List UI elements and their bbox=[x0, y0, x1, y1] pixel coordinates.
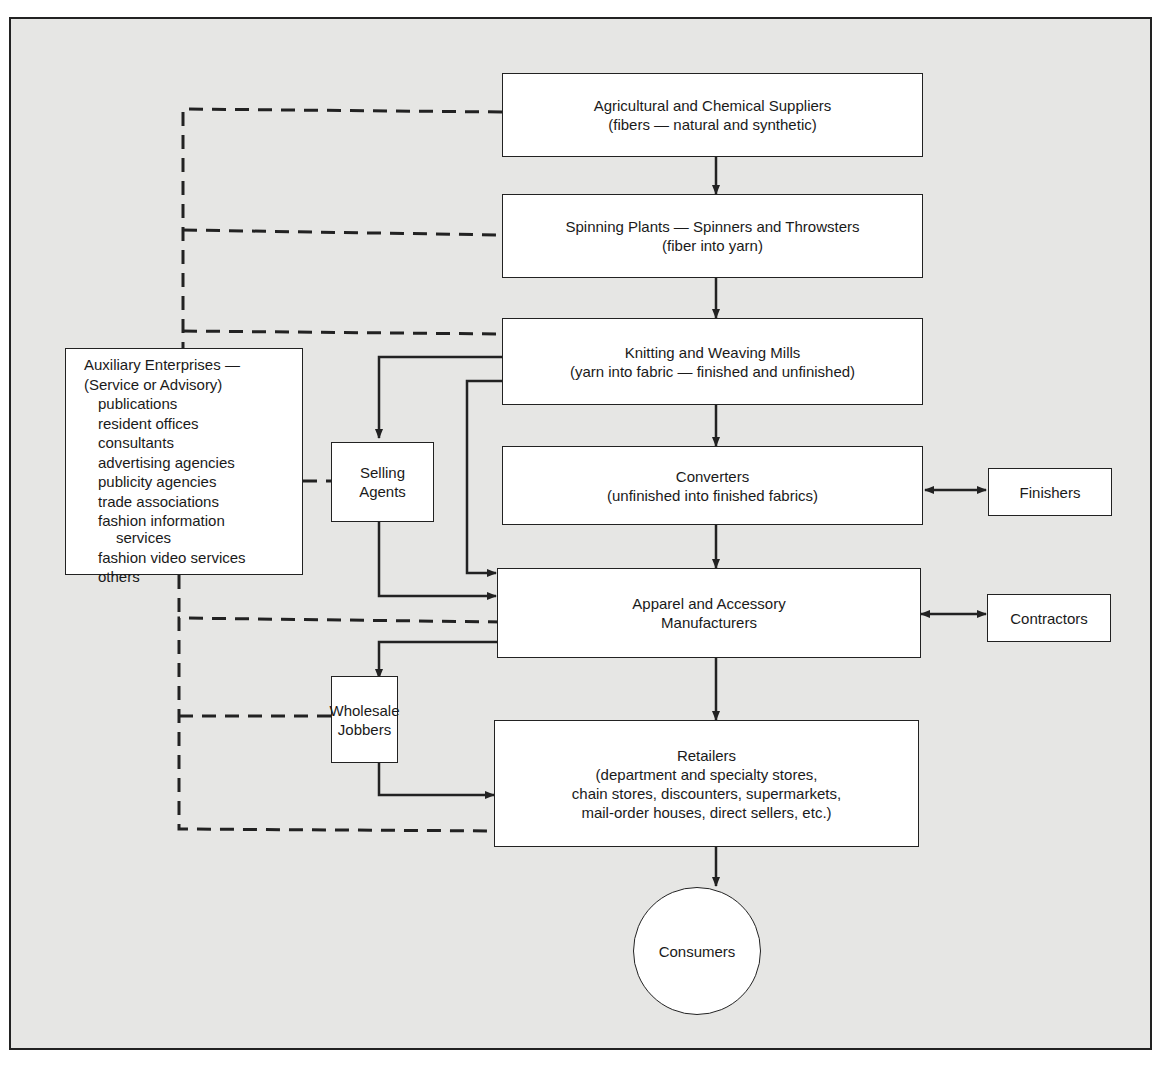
node-title: Apparel and Accessory bbox=[632, 594, 785, 613]
aux-title: Auxiliary Enterprises — bbox=[84, 355, 302, 375]
aux-item: resident offices bbox=[84, 414, 302, 434]
node-selling-agents: Selling Agents bbox=[331, 442, 434, 522]
node-line: (department and specialty stores, bbox=[596, 765, 818, 784]
node-title: Knitting and Weaving Mills bbox=[625, 343, 801, 362]
node-title: Converters bbox=[676, 467, 749, 486]
node-title: Consumers bbox=[659, 943, 736, 960]
aux-item: fashion video services bbox=[84, 548, 302, 568]
node-knitting-weaving-mills: Knitting and Weaving Mills (yarn into fa… bbox=[502, 318, 923, 405]
node-title: Jobbers bbox=[338, 720, 391, 739]
node-title: Retailers bbox=[677, 746, 736, 765]
node-subtitle: (unfinished into finished fabrics) bbox=[607, 486, 818, 505]
node-title: Spinning Plants — Spinners and Throwster… bbox=[565, 217, 859, 236]
node-consumers: Consumers bbox=[633, 887, 761, 1015]
node-auxiliary-enterprises: Auxiliary Enterprises — (Service or Advi… bbox=[65, 348, 303, 575]
aux-item: others bbox=[84, 567, 302, 587]
node-wholesale-jobbers: Wholesale Jobbers bbox=[331, 676, 398, 763]
aux-item: publications bbox=[84, 394, 302, 414]
node-title: Selling bbox=[360, 463, 405, 482]
node-line: chain stores, discounters, supermarkets, bbox=[572, 784, 841, 803]
node-converters: Converters (unfinished into finished fab… bbox=[502, 446, 923, 525]
node-finishers: Finishers bbox=[988, 468, 1112, 516]
aux-item: publicity agencies bbox=[84, 472, 302, 492]
node-spinning-plants: Spinning Plants — Spinners and Throwster… bbox=[502, 194, 923, 278]
node-title: Agricultural and Chemical Suppliers bbox=[594, 96, 832, 115]
aux-item-continued: services bbox=[84, 531, 302, 545]
aux-item: advertising agencies bbox=[84, 453, 302, 473]
node-contractors: Contractors bbox=[987, 594, 1111, 642]
node-line: mail-order houses, direct sellers, etc.) bbox=[581, 803, 831, 822]
node-title: Wholesale bbox=[329, 701, 399, 720]
node-subtitle: Manufacturers bbox=[661, 613, 757, 632]
node-subtitle: (fibers — natural and synthetic) bbox=[608, 115, 816, 134]
node-subtitle: (fiber into yarn) bbox=[662, 236, 763, 255]
aux-item: fashion information bbox=[84, 511, 302, 531]
aux-subtitle: (Service or Advisory) bbox=[84, 375, 302, 395]
node-agricultural-chemical-suppliers: Agricultural and Chemical Suppliers (fib… bbox=[502, 73, 923, 157]
node-title: Agents bbox=[359, 482, 406, 501]
aux-item: trade associations bbox=[84, 492, 302, 512]
node-title: Contractors bbox=[1010, 609, 1088, 628]
node-title: Finishers bbox=[1020, 483, 1081, 502]
aux-item: consultants bbox=[84, 433, 302, 453]
node-subtitle: (yarn into fabric — finished and unfinis… bbox=[570, 362, 855, 381]
node-apparel-manufacturers: Apparel and Accessory Manufacturers bbox=[497, 568, 921, 658]
node-retailers: Retailers (department and specialty stor… bbox=[494, 720, 919, 847]
